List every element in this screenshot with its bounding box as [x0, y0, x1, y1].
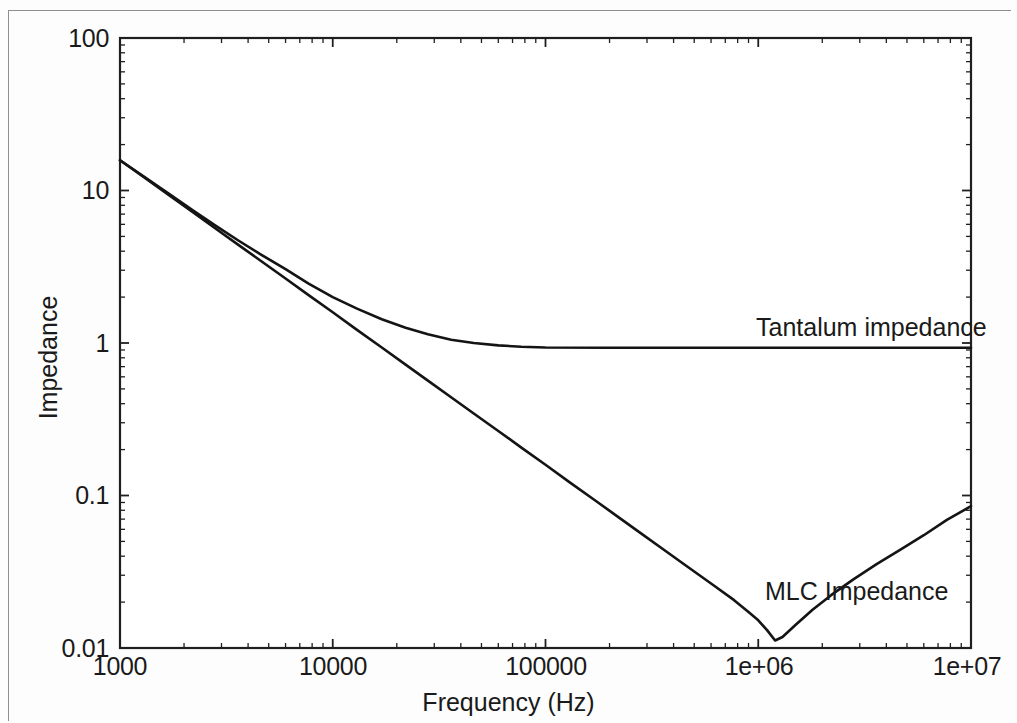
- y-tick-label-10: 10: [26, 176, 109, 205]
- impedance-chart: 1000 10000 100000 1e+06 1e+07 100 10 1 0…: [0, 0, 1017, 723]
- y-axis-title: Impedance: [34, 248, 63, 468]
- y-tick-label-0.1: 0.1: [26, 481, 109, 510]
- x-axis-title: Frequency (Hz): [0, 688, 1017, 717]
- tantalum-curve-label: Tantalum impedance: [756, 313, 987, 342]
- x-tick-label-4: 1e+06: [725, 652, 794, 681]
- y-tick-label-0.01: 0.01: [26, 634, 109, 663]
- y-tick-label-100: 100: [26, 24, 109, 53]
- x-tick-label-5: 1e+07: [933, 652, 1002, 681]
- figure-page: 1000 10000 100000 1e+06 1e+07 100 10 1 0…: [0, 0, 1017, 723]
- x-tick-label-2: 10000: [299, 652, 367, 681]
- x-tick-label-3: 100000: [505, 652, 587, 681]
- plot-frame: [120, 38, 971, 648]
- mlc-curve-label: MLC Impedance: [765, 577, 948, 606]
- plot-canvas: [0, 0, 1017, 723]
